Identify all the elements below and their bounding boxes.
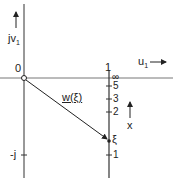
one-label: 1 — [105, 62, 111, 73]
diagram-canvas — [0, 0, 173, 186]
tick-2: 2 — [113, 107, 119, 117]
jv-label: jv1 — [8, 33, 20, 46]
tick-3: 3 — [113, 94, 119, 104]
x-label: x — [127, 120, 133, 131]
xi-label: ξ — [112, 134, 117, 145]
origin-circle — [22, 76, 27, 81]
u-label: u1 — [138, 56, 148, 69]
vector-w — [26, 80, 107, 139]
xi-point — [107, 139, 111, 143]
origin-label: 0 — [15, 63, 21, 74]
tick-1: 1 — [113, 150, 119, 160]
neg-j-label: -j — [10, 149, 16, 160]
vector-label: w(ξ) — [62, 92, 82, 103]
tick-5: 5 — [113, 81, 119, 91]
